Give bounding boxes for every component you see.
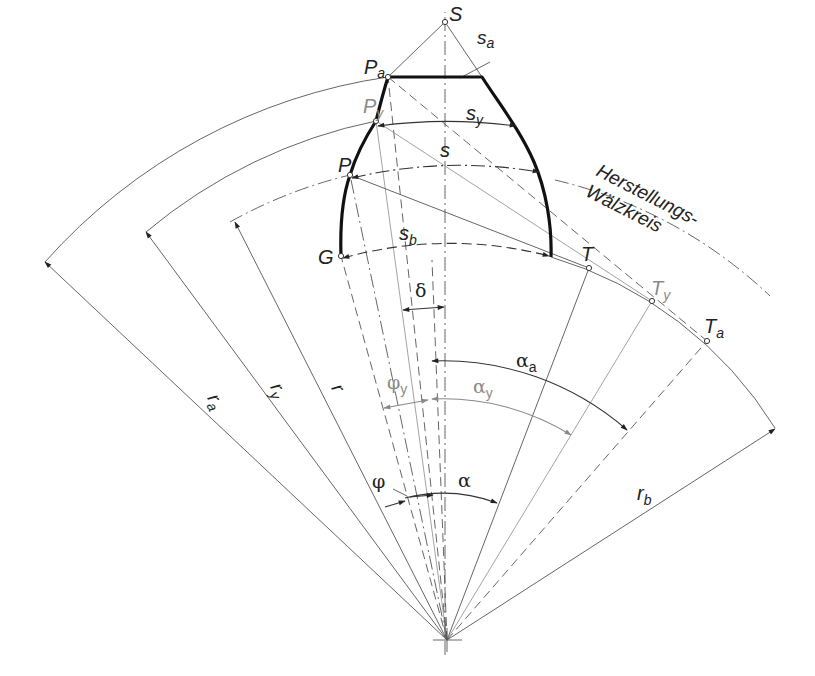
label-sb: sb bbox=[399, 222, 417, 248]
line-O-G bbox=[341, 256, 447, 640]
dim-phi bbox=[385, 501, 405, 507]
pitch-circle-arc bbox=[230, 175, 770, 296]
tip-circle-arc bbox=[45, 77, 388, 262]
pitch-circle-label: Herstellungs- Wälzkreis bbox=[583, 160, 703, 250]
label-P: P bbox=[338, 154, 352, 176]
radius-ry bbox=[146, 232, 447, 640]
label-G: G bbox=[318, 246, 334, 268]
point-T bbox=[586, 265, 591, 270]
dim-delta bbox=[403, 307, 444, 310]
line-O-P bbox=[350, 175, 447, 640]
line-O-Ty bbox=[447, 301, 652, 640]
point-S bbox=[442, 19, 447, 24]
radius-rb bbox=[447, 429, 775, 640]
label-S: S bbox=[449, 3, 463, 25]
line-Pa-S bbox=[388, 22, 445, 77]
radius-ra bbox=[45, 262, 447, 640]
dim-alpha bbox=[405, 493, 497, 503]
label-alpha-y: αy bbox=[473, 375, 493, 401]
point-Pa bbox=[385, 74, 390, 79]
point-Ta bbox=[704, 338, 709, 343]
leader-phi bbox=[393, 489, 407, 496]
dim-phi-y bbox=[384, 400, 428, 408]
involute-tooth-diagram: S sa Pa Py P G sy s sb T Ty Ta δ αa αy φ… bbox=[0, 0, 815, 676]
label-phi: φ bbox=[372, 470, 385, 492]
label-r: r bbox=[327, 380, 349, 396]
dim-alpha-y bbox=[432, 399, 571, 435]
label-sa: sa bbox=[477, 27, 495, 51]
label-rb: rb bbox=[637, 482, 652, 508]
label-Pa: Pa bbox=[364, 56, 385, 81]
label-ry: ry bbox=[264, 379, 292, 403]
label-alpha: α bbox=[458, 469, 471, 491]
label-Ta: Ta bbox=[704, 315, 724, 341]
tangent-P-T bbox=[350, 175, 589, 268]
dim-sb bbox=[343, 243, 549, 258]
label-ra: ra bbox=[201, 390, 229, 414]
point-Ty bbox=[649, 298, 654, 303]
label-phi-y: φy bbox=[387, 371, 407, 397]
label-s: s bbox=[440, 139, 450, 161]
point-G bbox=[338, 253, 343, 258]
origin-crosshair bbox=[433, 628, 462, 652]
label-sy: sy bbox=[466, 102, 484, 128]
label-delta: δ bbox=[415, 279, 426, 301]
dim-s bbox=[352, 165, 539, 178]
line-O-T bbox=[447, 268, 589, 640]
label-T: T bbox=[581, 243, 595, 265]
